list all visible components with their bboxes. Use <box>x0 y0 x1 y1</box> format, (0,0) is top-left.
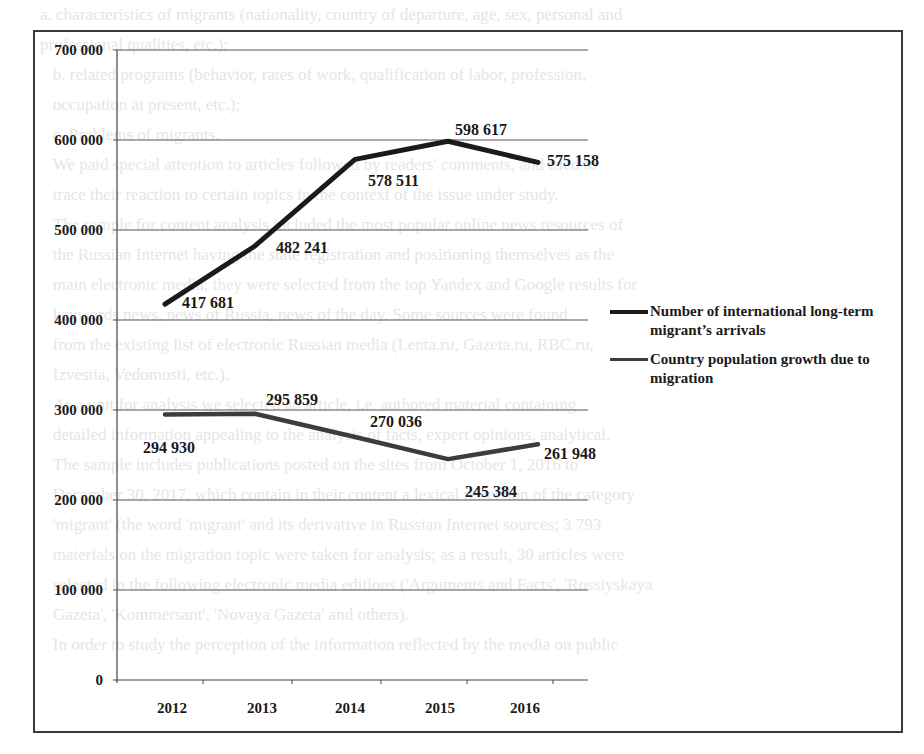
x-axis: 20122013201420152016 <box>113 680 588 716</box>
x-tick-label: 2013 <box>247 700 277 716</box>
series-population-growth-line <box>165 414 538 459</box>
x-tick-label: 2016 <box>510 700 541 716</box>
legend-item-arrivals: Number of international long-term migran… <box>610 302 890 340</box>
y-tick-label: 600 000 <box>54 132 103 148</box>
legend-label-arrivals: Number of international long-term migran… <box>650 302 890 340</box>
y-axis: 0100 000200 000300 000400 000500 000600 … <box>54 42 117 688</box>
legend-swatch-arrivals <box>610 310 648 314</box>
y-tick-label: 200 000 <box>54 492 103 508</box>
y-tick-label: 300 000 <box>54 402 103 418</box>
data-label-arrivals: 578 511 <box>368 172 419 189</box>
data-labels: 417 681482 241578 511598 617575 158294 9… <box>143 121 599 500</box>
y-tick-label: 100 000 <box>54 582 103 598</box>
data-label-population-growth: 295 859 <box>266 391 318 408</box>
data-label-population-growth: 270 036 <box>370 413 422 430</box>
data-label-population-growth: 261 948 <box>544 445 596 462</box>
data-label-population-growth: 245 384 <box>465 483 517 500</box>
series-arrivals-line <box>165 141 538 304</box>
x-tick-label: 2015 <box>425 700 455 716</box>
x-tick-label: 2014 <box>335 700 366 716</box>
y-tick-label: 400 000 <box>54 312 103 328</box>
legend-swatch-population-growth <box>610 358 648 361</box>
data-label-arrivals: 598 617 <box>455 121 507 138</box>
y-tick-label: 500 000 <box>54 222 103 238</box>
gridlines <box>113 50 588 590</box>
chart-legend: Number of international long-term migran… <box>610 302 890 398</box>
legend-label-population-growth: Country population growth due to migrati… <box>650 350 890 388</box>
y-tick-label: 700 000 <box>54 42 103 58</box>
data-label-population-growth: 294 930 <box>143 439 195 456</box>
data-label-arrivals: 482 241 <box>276 239 328 256</box>
y-tick-label: 0 <box>96 672 104 688</box>
data-label-arrivals: 417 681 <box>182 294 234 311</box>
data-label-arrivals: 575 158 <box>547 152 599 169</box>
legend-item-population-growth: Country population growth due to migrati… <box>610 350 890 388</box>
x-tick-label: 2012 <box>157 700 187 716</box>
